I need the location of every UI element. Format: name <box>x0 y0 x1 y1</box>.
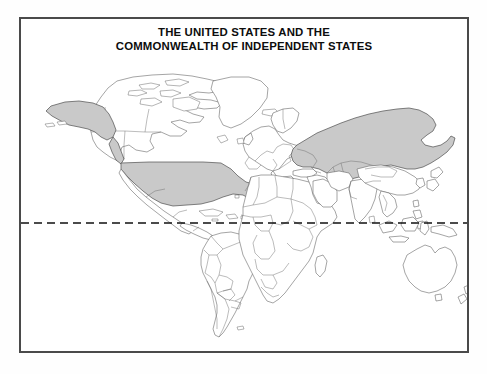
world-map-graphic: .land { fill:#ffffff; stroke:#5a5a5a; st… <box>21 19 467 351</box>
map-page: THE UNITED STATES AND THE COMMONWEALTH O… <box>0 0 487 374</box>
map-title-line-2: COMMONWEALTH OF INDEPENDENT STATES <box>21 39 467 53</box>
island-taiwan <box>413 200 419 207</box>
island-aleutian-2 <box>57 121 67 125</box>
island-aleutian-1 <box>45 123 55 127</box>
country-ireland <box>237 138 244 144</box>
map-title: THE UNITED STATES AND THE COMMONWEALTH O… <box>21 25 467 53</box>
island-tasmania <box>435 294 442 301</box>
map-title-line-1: THE UNITED STATES AND THE <box>21 25 467 39</box>
map-frame: THE UNITED STATES AND THE COMMONWEALTH O… <box>19 17 469 353</box>
island-sri-lanka <box>369 216 375 223</box>
island-jamaica <box>212 219 218 221</box>
island-canary <box>235 195 239 198</box>
island-falklands <box>237 326 244 330</box>
